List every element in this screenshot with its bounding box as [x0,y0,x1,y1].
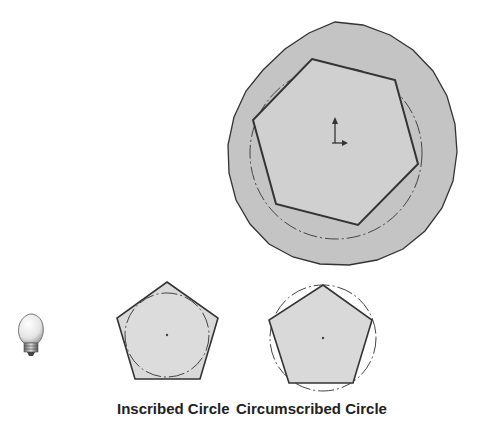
main-figure [228,22,457,265]
center-point [166,334,168,336]
circumscribed-circle-figure [269,285,376,391]
circumscribed-circle-label: Circumscribed Circle [236,400,387,417]
diagram-canvas [0,0,478,434]
center-point [322,337,324,339]
inscribed-circle-label: Inscribed Circle [117,400,230,417]
circumscribed-pentagon [269,285,372,383]
lightbulb-icon [19,314,44,356]
inscribed-circle-figure [117,282,218,379]
